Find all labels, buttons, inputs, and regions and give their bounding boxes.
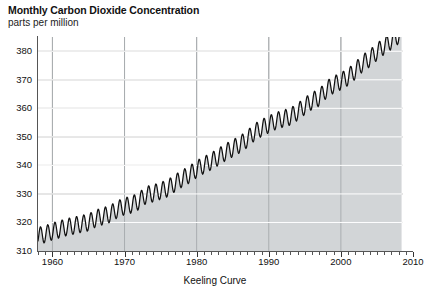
x-minor-tick [81, 252, 82, 255]
x-minor-tick [391, 252, 392, 255]
x-minor-tick [161, 252, 162, 255]
y-tick-label: 310 [0, 245, 32, 256]
x-tick-label: 1980 [177, 256, 217, 267]
x-minor-tick [74, 252, 75, 255]
x-minor-tick [384, 252, 385, 255]
x-minor-tick [334, 252, 335, 255]
x-minor-tick [153, 252, 154, 255]
x-minor-tick [117, 252, 118, 255]
x-minor-tick [312, 252, 313, 255]
x-minor-tick [204, 252, 205, 255]
x-minor-tick [110, 252, 111, 255]
x-minor-tick [283, 252, 284, 255]
x-minor-tick [363, 252, 364, 255]
x-tick-label: 1990 [249, 256, 289, 267]
x-minor-tick [247, 252, 248, 255]
x-minor-tick [370, 252, 371, 255]
x-minor-tick [326, 252, 327, 255]
x-minor-tick [276, 252, 277, 255]
x-minor-tick [60, 252, 61, 255]
y-tick-label: 370 [0, 74, 32, 85]
x-major-tick [413, 252, 414, 257]
x-major-tick [269, 252, 270, 257]
x-minor-tick [226, 252, 227, 255]
x-minor-tick [189, 252, 190, 255]
x-minor-tick [240, 252, 241, 255]
page-title: Monthly Carbon Dioxide Concentration [8, 4, 199, 16]
y-tick-label: 340 [0, 159, 32, 170]
x-minor-tick [67, 252, 68, 255]
x-minor-tick [305, 252, 306, 255]
y-tick-label: 320 [0, 216, 32, 227]
x-minor-tick [254, 252, 255, 255]
x-minor-tick [132, 252, 133, 255]
x-tick-label: 2000 [321, 256, 361, 267]
chart-figure: Monthly Carbon Dioxide Concentration par… [0, 0, 430, 297]
chart-subtitle: parts per million [8, 17, 79, 28]
x-minor-tick [406, 252, 407, 255]
x-axis-title: Keeling Curve [0, 275, 430, 286]
x-major-tick [52, 252, 53, 257]
x-tick-label: 1970 [105, 256, 145, 267]
x-minor-tick [38, 252, 39, 255]
x-major-tick [197, 252, 198, 257]
x-minor-tick [319, 252, 320, 255]
x-minor-tick [96, 252, 97, 255]
x-minor-tick [233, 252, 234, 255]
x-minor-tick [182, 252, 183, 255]
x-major-tick [341, 252, 342, 257]
x-tick-label: 2010 [393, 256, 430, 267]
x-minor-tick [218, 252, 219, 255]
x-minor-tick [88, 252, 89, 255]
x-minor-tick [262, 252, 263, 255]
y-tick-label: 380 [0, 45, 32, 56]
x-minor-tick [348, 252, 349, 255]
x-minor-tick [103, 252, 104, 255]
x-minor-tick [298, 252, 299, 255]
y-tick-label: 330 [0, 188, 32, 199]
y-tick-label: 350 [0, 131, 32, 142]
x-minor-tick [139, 252, 140, 255]
x-minor-tick [45, 252, 46, 255]
x-minor-tick [399, 252, 400, 255]
x-minor-tick [168, 252, 169, 255]
x-tick-label: 1960 [32, 256, 72, 267]
x-minor-tick [146, 252, 147, 255]
y-axis-line [37, 36, 38, 252]
x-minor-tick [175, 252, 176, 255]
x-major-tick [125, 252, 126, 257]
co2-series [38, 37, 413, 251]
x-minor-tick [355, 252, 356, 255]
x-minor-tick [377, 252, 378, 255]
x-minor-tick [290, 252, 291, 255]
y-tick-label: 360 [0, 102, 32, 113]
plot-area [38, 37, 413, 251]
x-minor-tick [211, 252, 212, 255]
